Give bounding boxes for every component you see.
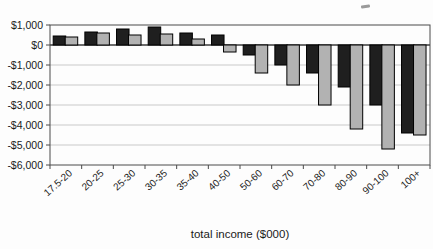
x-tick-label: 25-30	[111, 167, 138, 193]
bar-series-black-50-60	[243, 45, 256, 55]
bar-series-gray-20-25	[97, 33, 110, 45]
x-tick-label: 80-90	[333, 167, 360, 193]
bar-series-gray-100+	[414, 45, 427, 135]
bar-series-gray-50-60	[255, 45, 268, 73]
bar-series-gray-60-70	[287, 45, 300, 85]
bar-series-black-30-35	[148, 27, 161, 45]
income-bar-chart: $1,000$0-$1,000-$2,000-$3,000-$4,000-$5,…	[0, 0, 433, 249]
bar-series-black-40-50	[212, 35, 225, 45]
y-tick-label: $0	[31, 39, 43, 51]
x-axis-title: total income ($000)	[191, 228, 290, 240]
bar-series-gray-80-90	[350, 45, 363, 129]
bar-series-black-100+	[402, 45, 415, 133]
bar-series-gray-90-100	[382, 45, 395, 149]
bar-series-gray-35-40	[192, 39, 205, 45]
bar-series-gray-25-30	[129, 35, 142, 45]
bar-series-black-20-25	[85, 32, 98, 45]
bar-series-black-70-80	[307, 45, 320, 73]
y-tick-label: -$5,000	[7, 139, 43, 151]
x-tick-label: 40-50	[206, 167, 233, 193]
y-tick-label: -$4,000	[7, 119, 43, 131]
x-tick-label: 17.5-20	[42, 167, 75, 198]
y-tick-label: -$2,000	[7, 79, 43, 91]
x-tick-label: 90-100	[360, 167, 391, 196]
x-tick-label: 20-25	[79, 167, 106, 193]
x-tick-label: 50-60	[238, 167, 265, 193]
bar-series-black-25-30	[117, 29, 129, 45]
bar-series-gray-30-35	[160, 34, 173, 45]
bar-series-black-17.5-20	[53, 36, 65, 45]
y-tick-label: -$1,000	[7, 59, 43, 71]
x-tick-label: 30-35	[143, 167, 170, 193]
bar-series-black-60-70	[275, 45, 288, 65]
x-tick-label: 100+	[398, 167, 422, 190]
bar-series-gray-17.5-20	[65, 37, 78, 45]
x-tick-label: 35-40	[174, 167, 201, 193]
x-tick-label: 60-70	[269, 167, 296, 193]
bar-series-black-35-40	[180, 33, 193, 45]
bar-series-gray-70-80	[319, 45, 332, 105]
chart-svg: $1,000$0-$1,000-$2,000-$3,000-$4,000-$5,…	[0, 0, 433, 249]
bar-series-black-90-100	[370, 45, 383, 105]
y-tick-label: -$3,000	[7, 99, 43, 111]
y-tick-label: -$6,000	[7, 159, 43, 171]
y-tick-label: $1,000	[11, 19, 43, 31]
x-tick-label: 70-80	[301, 167, 328, 193]
bar-series-gray-40-50	[224, 45, 237, 52]
bar-series-black-80-90	[338, 45, 351, 87]
